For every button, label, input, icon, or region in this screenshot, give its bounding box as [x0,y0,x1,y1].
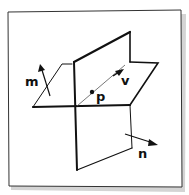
paper-sheet [8,10,182,187]
label-p: p [96,89,105,104]
label-m: m [25,74,39,89]
diagram-canvas: p v m n [0,0,189,195]
point-p [90,90,94,94]
label-n: n [138,146,147,161]
label-v: v [121,73,130,88]
